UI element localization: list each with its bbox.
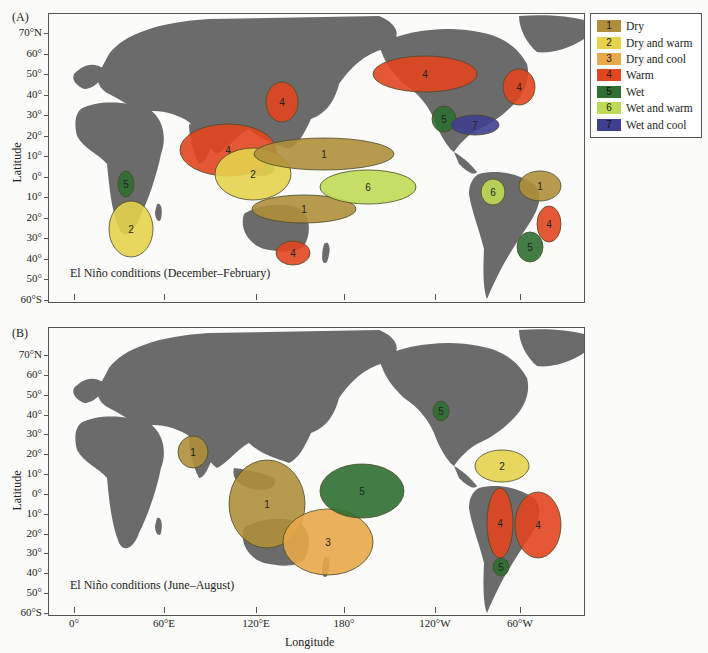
longitude-tick-label: 120°W <box>410 617 460 629</box>
climate-region: 1 <box>519 171 561 201</box>
landmass <box>454 466 477 488</box>
legend-item: 5Wet <box>597 84 701 100</box>
latitude-tick-label: 40° <box>2 408 42 420</box>
latitude-tick-label: 30° <box>2 108 42 120</box>
legend-swatch: 4 <box>597 69 621 81</box>
latitude-tick-label: 10° <box>2 507 42 519</box>
latitude-tick-label: 70°N <box>2 26 42 38</box>
panel-b-label: (B) <box>12 326 28 341</box>
longitude-tick <box>256 607 257 613</box>
region-code-label: 4 <box>546 219 552 230</box>
climate-region: 4 <box>373 56 477 92</box>
climate-region: 4 <box>266 82 298 122</box>
region-code-label: 6 <box>490 187 496 198</box>
legend-label: Dry and cool <box>626 53 686 65</box>
panel-a-map: 52442116444576145 <box>48 13 585 303</box>
legend-label: Wet <box>626 86 644 98</box>
latitude-tick-label: 40° <box>2 252 42 264</box>
legend-swatch: 6 <box>597 102 621 114</box>
longitude-tick <box>344 607 345 613</box>
region-code-label: 1 <box>190 447 196 458</box>
legend-swatch: 5 <box>597 86 621 98</box>
region-code-label: 4 <box>535 520 541 531</box>
panel-b-caption: El Niño conditions (June–August) <box>70 578 234 593</box>
climate-region: 4 <box>503 69 535 105</box>
legend-label: Wet and warm <box>626 102 693 114</box>
latitude-tick-label: 10° <box>2 190 42 202</box>
longitude-tick <box>435 294 436 300</box>
landmass <box>322 243 329 263</box>
longitude-tick-label: 180° <box>319 617 369 629</box>
climate-region: 6 <box>481 179 505 205</box>
climate-region: 5 <box>433 401 449 421</box>
longitude-tick-label: 0° <box>49 617 99 629</box>
longitude-tick <box>435 607 436 613</box>
region-code-label: 5 <box>498 562 504 573</box>
climate-region: 4 <box>515 492 561 558</box>
panel-a-caption: El Niño conditions (December–February) <box>70 266 270 281</box>
legend-swatch: 3 <box>597 53 621 65</box>
landmass <box>454 152 477 174</box>
climate-region: 7 <box>451 115 499 135</box>
climate-region: 5 <box>320 464 404 518</box>
climate-region: 2 <box>109 201 153 257</box>
region-code-label: 4 <box>279 97 285 108</box>
latitude-tick-label: 40° <box>2 88 42 100</box>
legend-item: 1Dry <box>597 18 701 34</box>
longitude-tick <box>74 607 75 613</box>
latitude-tick-label: 50° <box>2 586 42 598</box>
longitude-tick <box>520 294 521 300</box>
latitude-tick-label: 10° <box>2 467 42 479</box>
region-code-label: 7 <box>472 120 478 131</box>
region-code-label: 1 <box>264 499 270 510</box>
legend-swatch: 1 <box>597 20 621 32</box>
longitude-tick <box>164 294 165 300</box>
longitude-tick <box>74 294 75 300</box>
region-code-label: 1 <box>321 149 327 160</box>
region-code-label: 5 <box>438 406 444 417</box>
latitude-tick-label: 50° <box>2 272 42 284</box>
landmass <box>155 518 162 535</box>
landmass <box>519 15 584 52</box>
legend-item: 3Dry and cool <box>597 51 701 67</box>
legend-swatch: 7 <box>597 119 621 131</box>
panel-b-map: 113552445 <box>48 327 585 616</box>
latitude-tick-label: 30° <box>2 427 42 439</box>
region-code-label: 4 <box>290 248 296 259</box>
region-code-label: 4 <box>497 518 503 529</box>
latitude-tick-label: 10° <box>2 149 42 161</box>
climate-region: 5 <box>118 171 134 197</box>
latitude-tick-label: 50° <box>2 67 42 79</box>
region-code-label: 5 <box>441 114 447 125</box>
legend-item: 7Wet and cool <box>597 116 701 132</box>
region-code-label: 1 <box>301 204 307 215</box>
latitude-tick-label: 60°S <box>2 606 42 618</box>
climate-region: 2 <box>475 450 529 482</box>
climate-region: 1 <box>178 436 208 468</box>
latitude-tick-label: 60° <box>2 47 42 59</box>
latitude-tick-label: 0° <box>2 487 42 499</box>
region-code-label: 6 <box>365 182 371 193</box>
latitude-tick-label: 30° <box>2 546 42 558</box>
region-code-label: 2 <box>250 169 256 180</box>
region-code-label: 1 <box>537 181 543 192</box>
region-code-label: 3 <box>325 537 331 548</box>
longitude-tick <box>256 294 257 300</box>
legend-label: Wet and cool <box>626 119 686 131</box>
region-code-label: 2 <box>499 461 505 472</box>
latitude-tick-label: 20° <box>2 447 42 459</box>
climate-region: 1 <box>254 138 394 170</box>
landmass <box>379 343 528 466</box>
latitude-tick-label: 50° <box>2 388 42 400</box>
latitude-tick-label: 20° <box>2 129 42 141</box>
legend-item: 6Wet and warm <box>597 100 701 116</box>
climate-region: 4 <box>537 206 561 242</box>
climate-region: 5 <box>493 558 509 576</box>
latitude-tick-label: 0° <box>2 170 42 182</box>
longitude-tick-label: 60°E <box>139 617 189 629</box>
longitude-title: Longitude <box>285 635 334 650</box>
longitude-tick <box>344 294 345 300</box>
legend-label: Warm <box>626 69 654 81</box>
latitude-tick-label: 20° <box>2 211 42 223</box>
climate-region: 6 <box>320 170 416 204</box>
